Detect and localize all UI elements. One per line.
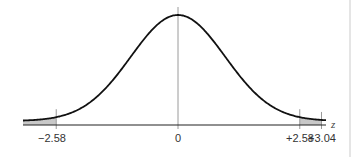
tick-label-zero: 0: [175, 132, 181, 144]
z-axis-label: z: [330, 118, 336, 130]
tick-label-pos-3-04: +3.04: [308, 132, 336, 144]
normal-curve: [23, 15, 326, 121]
tick-label-neg-2-58: −2.58: [38, 132, 66, 144]
shaded-tail-regions: [23, 117, 321, 125]
normal-distribution-chart: z −2.58 0 +2.58 +3.04: [0, 0, 353, 157]
